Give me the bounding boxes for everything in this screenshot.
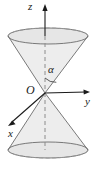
- x-axis-label: x: [8, 128, 13, 139]
- y-axis-label: y: [85, 96, 90, 107]
- origin-label: O: [26, 84, 35, 96]
- y-axis-arrowhead: [84, 90, 91, 95]
- x-axis-arrowhead: [8, 120, 16, 126]
- double-cone-figure: z y x O α: [0, 0, 96, 179]
- z-axis-label: z: [28, 1, 32, 12]
- z-axis-arrowhead: [42, 4, 47, 11]
- y-axis-line: [45, 92, 86, 93]
- half-angle-label: α: [48, 64, 54, 75]
- cone-diagram-svg: [0, 0, 96, 179]
